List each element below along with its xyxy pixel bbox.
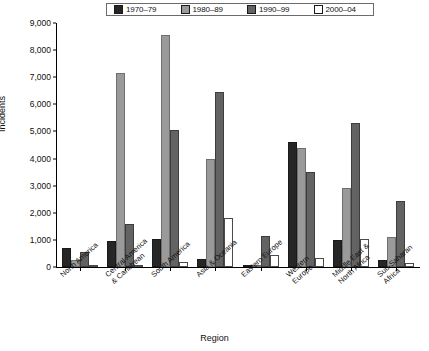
legend-item-1980-89: 1980–89 — [174, 5, 241, 14]
bar — [306, 172, 315, 267]
bar-group — [57, 23, 102, 267]
y-tick-mark — [53, 104, 56, 105]
bar — [270, 255, 279, 267]
bar — [161, 35, 170, 267]
chart-legend: 1970–79 1980–89 1990–99 2000–04 — [106, 3, 374, 16]
y-tick-mark — [53, 267, 56, 268]
legend-swatch-2000-04 — [314, 5, 323, 14]
bar-group — [329, 23, 374, 267]
y-tick-mark — [53, 212, 56, 213]
bar-group — [238, 23, 283, 267]
y-tick-mark — [53, 185, 56, 186]
legend-item-1990-99: 1990–99 — [240, 5, 307, 14]
y-tick-mark — [53, 50, 56, 51]
x-label-cell: South America — [148, 271, 193, 331]
legend-swatch-1980-89 — [181, 5, 190, 14]
bar — [179, 262, 188, 267]
bar — [288, 142, 297, 267]
y-tick-mark — [53, 77, 56, 78]
x-axis-labels: North AmericaCentral America& CaribbeanS… — [57, 271, 419, 331]
bar-groups — [57, 23, 419, 267]
bar — [89, 265, 98, 267]
x-label-cell: Asia & Oceania — [193, 271, 238, 331]
bar-group — [102, 23, 147, 267]
legend-item-2000-04: 2000–04 — [307, 5, 374, 14]
bar — [206, 159, 215, 267]
legend-item-1970-79: 1970–79 — [107, 5, 174, 14]
y-axis-title: Incidents — [0, 96, 7, 132]
legend-label-2000-04: 2000–04 — [326, 6, 356, 14]
x-label-cell: Sub-SaharanAfrica — [374, 271, 419, 331]
y-tick-mark — [53, 131, 56, 132]
y-tick-mark — [53, 158, 56, 159]
y-tick-mark — [53, 239, 56, 240]
bar-group — [374, 23, 419, 267]
legend-label-1970-79: 1970–79 — [126, 6, 156, 14]
x-label-cell: Eastern Europe — [238, 271, 283, 331]
bar — [297, 148, 306, 267]
x-label-cell: North America — [57, 271, 102, 331]
x-label-cell: Middle East &North Africa — [329, 271, 374, 331]
legend-swatch-1990-99 — [247, 5, 256, 14]
bar-group — [283, 23, 328, 267]
x-label-cell: Central America& Caribbean — [102, 271, 147, 331]
legend-label-1980-89: 1980–89 — [193, 6, 223, 14]
bar — [215, 92, 224, 267]
bar-group — [148, 23, 193, 267]
legend-swatch-1970-79 — [114, 5, 123, 14]
y-tick-mark — [53, 23, 56, 24]
x-label-cell: WesternEurope — [283, 271, 328, 331]
bar — [116, 73, 125, 267]
bar-group — [193, 23, 238, 267]
legend-label-1990-99: 1990–99 — [259, 6, 289, 14]
x-axis-title: Region — [0, 334, 429, 343]
